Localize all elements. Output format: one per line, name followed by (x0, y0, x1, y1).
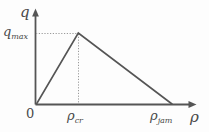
rho-cr-subscript: cr (75, 116, 83, 125)
rho-jam-subscript: jam (158, 116, 172, 125)
x-axis-label: ρ (190, 110, 199, 125)
rho-jam-main: ρ (150, 108, 158, 123)
x-tick-label-rho-jam: ρjam (150, 109, 172, 122)
y-axis-label: q (20, 5, 30, 20)
x-tick-label-rho-cr: ρcr (67, 109, 83, 122)
rho-cr-main: ρ (67, 108, 75, 123)
qmax-subscript: max (11, 32, 27, 41)
y-axis (32, 9, 39, 105)
flow-density-curve (37, 33, 173, 104)
y-tick-label-qmax: qmax (3, 25, 28, 38)
fundamental-diagram-figure: q ρ qmax 0 ρcr ρjam (0, 0, 209, 132)
origin-label: 0 (26, 107, 34, 120)
